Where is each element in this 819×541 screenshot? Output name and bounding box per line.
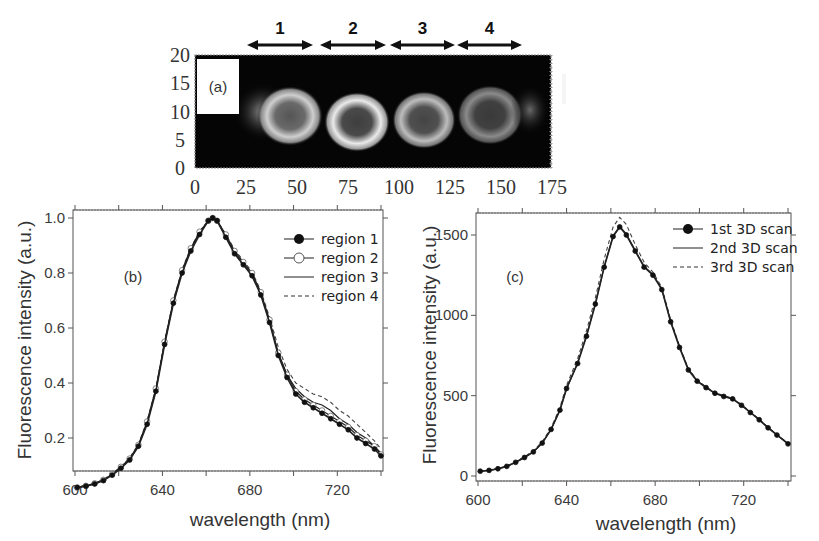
legend-item: region 2 [284, 250, 379, 266]
data-point [540, 441, 545, 446]
data-point [337, 422, 342, 427]
data-point [593, 302, 598, 307]
data-point [328, 416, 333, 421]
data-point [276, 353, 281, 358]
data-point [564, 386, 569, 391]
data-point [757, 417, 762, 422]
legend-label: region 1 [321, 231, 379, 247]
data-point [232, 251, 237, 256]
cell-partial [510, 84, 550, 136]
x-tick-label: 600 [465, 491, 490, 508]
arrowhead-left-icon [320, 40, 331, 50]
data-point [372, 447, 377, 452]
panel-b-chart: 6006406807200.20.40.60.81.0 (b) region 1… [14, 205, 388, 530]
region-marker-1: 1 [247, 19, 313, 50]
filled-circle-marker-icon [294, 234, 304, 244]
data-point [704, 385, 709, 390]
data-point [293, 392, 298, 397]
region-marker-3: 3 [390, 19, 455, 50]
arrowhead-right-icon [511, 40, 522, 50]
legend-label: region 2 [321, 250, 379, 266]
data-point [695, 379, 700, 384]
panel-a-y-tick-label: 20 [170, 44, 190, 66]
data-point [651, 273, 656, 278]
data-point [478, 469, 483, 474]
legend-label: region 3 [321, 269, 379, 285]
data-point [285, 375, 290, 380]
data-point [487, 468, 492, 473]
panel-b-label: (b) [124, 268, 142, 285]
data-point [210, 216, 215, 221]
data-point [730, 396, 735, 401]
data-point [766, 425, 771, 430]
data-point [617, 225, 622, 230]
data-point [311, 405, 316, 410]
data-point [171, 301, 176, 306]
x-tick-label: 680 [237, 481, 262, 498]
legend-label: 3rd 3D scan [710, 259, 794, 275]
data-point [136, 444, 141, 449]
x-tick-label: 720 [731, 491, 756, 508]
data-point [197, 232, 202, 237]
data-point [206, 218, 211, 223]
x-tick-label: 640 [150, 481, 175, 498]
data-point [153, 389, 158, 394]
y-tick-label: 0.4 [44, 374, 65, 391]
x-tick-label: 720 [325, 481, 350, 498]
data-point [611, 234, 616, 239]
panel-a-x-tick-label: 175 [537, 176, 567, 198]
data-point [624, 233, 629, 238]
panel-a-x-tick-label: 150 [486, 176, 516, 198]
data-point [739, 403, 744, 408]
data-point [363, 441, 368, 446]
legend-item: 1st 3D scan [673, 221, 793, 237]
y-tick-label: 0.8 [44, 264, 65, 281]
legend-item: region 4 [284, 288, 379, 304]
data-point [119, 466, 124, 471]
data-point [346, 427, 351, 432]
data-point [180, 271, 185, 276]
data-point [84, 484, 89, 489]
y-tick-label: 0 [460, 467, 468, 484]
cell-region-2 [324, 92, 390, 152]
x-tick-label: 640 [554, 491, 579, 508]
region-markers: 1234 [247, 19, 522, 50]
panel-b-y-axis-title: Fluorescence intensity (a.u.) [14, 221, 35, 460]
data-point [686, 368, 691, 373]
data-point [101, 478, 106, 483]
cell-region-1 [257, 86, 323, 146]
data-point [496, 466, 501, 471]
panel-c-x-axis-title: wavelength (nm) [595, 513, 736, 534]
data-point [162, 342, 167, 347]
data-point [145, 422, 150, 427]
data-point [721, 394, 726, 399]
region-marker-4: 4 [457, 19, 522, 50]
data-point [748, 410, 753, 415]
data-point [522, 455, 527, 460]
data-point [677, 345, 682, 350]
data-point [250, 273, 255, 278]
panel-a-y-tick-label: 5 [175, 129, 185, 151]
panel-a-x-tick-label: 50 [287, 176, 307, 198]
open-circle-marker-icon [294, 253, 304, 263]
data-point [258, 293, 263, 298]
y-tick-label: 1.0 [44, 209, 65, 226]
data-point [642, 265, 647, 270]
panel-a-y-tick-label: 10 [170, 101, 190, 123]
panel-b-x-axis-title: wavelength (nm) [189, 509, 330, 530]
panel-a-x-tick-label: 125 [435, 176, 465, 198]
y-tick-label: 0.6 [44, 319, 65, 336]
data-point [127, 458, 132, 463]
data-point [633, 249, 638, 254]
y-tick-label: 500 [443, 387, 468, 404]
panel-c-chart: 600640680720050010001500 (c) 1st 3D scan… [419, 208, 798, 534]
data-point [188, 249, 193, 254]
panel-a-x-tick-label: 75 [338, 176, 358, 198]
arrowhead-right-icon [444, 40, 455, 50]
data-point [786, 441, 791, 446]
panel-c-legend: 1st 3D scan2nd 3D scan3rd 3D scan [673, 221, 798, 275]
region-number: 1 [275, 19, 284, 38]
data-point [241, 262, 246, 267]
legend-label: region 4 [321, 288, 379, 304]
data-point [75, 485, 80, 490]
